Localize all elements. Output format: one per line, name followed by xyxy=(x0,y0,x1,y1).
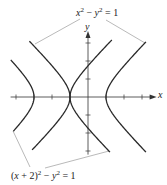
leader-line xyxy=(13,131,30,167)
x-plus-2-squared-minus-y2-eq-1-left-branch xyxy=(11,60,34,131)
x2-minus-y2-eq-1-left-branch xyxy=(29,41,70,150)
y-axis-arrow-icon xyxy=(86,31,91,38)
eq-bot-plus2: + 2) xyxy=(19,170,38,181)
x-axis-label: x xyxy=(158,90,162,100)
hyperbola-curves xyxy=(11,40,146,152)
equation-label-x2-minus-y2: x2 − y2 = 1 xyxy=(76,8,118,18)
hyperbola-plot xyxy=(0,0,167,185)
eq-top-rhs: = 1 xyxy=(103,7,119,18)
coordinate-axes xyxy=(11,31,157,155)
eq-top-minus: − xyxy=(84,7,95,18)
x-axis-arrow-icon xyxy=(150,95,157,100)
eq-bot-minus: − xyxy=(41,170,52,181)
annotation-leader-lines xyxy=(13,19,145,168)
eq-bot-rhs: = 1 xyxy=(60,170,76,181)
equation-label-x-plus-2-squared: (x + 2)2 − y2 = 1 xyxy=(11,171,76,181)
leader-line xyxy=(45,151,109,168)
leader-line xyxy=(106,20,145,43)
leader-line xyxy=(35,19,80,44)
y-axis-label: y xyxy=(85,22,89,32)
